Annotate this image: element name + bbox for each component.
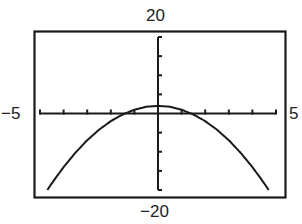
axes: [40, 37, 276, 190]
graph-window: [0, 0, 302, 224]
